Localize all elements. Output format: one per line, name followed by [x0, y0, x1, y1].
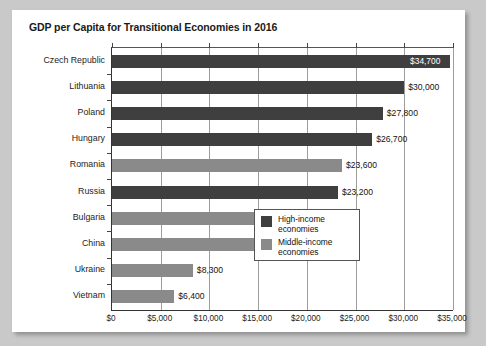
legend-label: Middle-income economies: [278, 238, 332, 257]
y-axis-tick: [107, 100, 112, 101]
bar: [112, 107, 383, 120]
x-axis-tick-label: $35,000: [437, 314, 467, 323]
y-axis-category-label: Czech Republic: [12, 55, 105, 65]
bar-value-label: $23,200: [342, 186, 373, 199]
legend-label: High-income economies: [278, 215, 325, 234]
bar-value-label: $34,700: [410, 55, 440, 68]
legend-swatch-high: [261, 216, 272, 227]
y-axis-category-label: China: [12, 238, 105, 248]
x-axis-tick: [356, 43, 357, 48]
bar-value-label: $8,300: [197, 264, 223, 277]
bar-value-label: $6,400: [178, 290, 204, 303]
legend-item: Middle-income economies: [261, 238, 359, 257]
y-axis-tick: [107, 231, 112, 232]
bar-value-label: $23,600: [346, 159, 377, 172]
bar-value-label: $26,700: [376, 133, 407, 146]
bar: [112, 159, 342, 172]
x-axis-tick: [161, 43, 162, 48]
bar-value-label: $30,000: [408, 81, 439, 94]
legend-item: High-income economies: [261, 215, 359, 234]
x-axis-tick: [453, 43, 454, 48]
y-axis-category-label: Romania: [12, 159, 105, 169]
y-axis-category-label: Ukraine: [12, 264, 105, 274]
bar: [112, 264, 193, 277]
gridline: [453, 48, 454, 310]
chart-title: GDP per Capita for Transitional Economie…: [29, 21, 277, 33]
y-axis-category-label: Vietnam: [12, 290, 105, 300]
legend-swatch-middle: [261, 239, 272, 250]
chart-legend: High-income economiesMiddle-income econo…: [254, 209, 360, 261]
y-axis-tick: [107, 258, 112, 259]
y-axis-tick: [107, 205, 112, 206]
x-axis-tick-label: $15,000: [242, 314, 272, 323]
x-axis-tick: [404, 43, 405, 48]
y-axis-category-label: Lithuania: [12, 81, 105, 91]
bar-value-label: $27,800: [387, 107, 418, 120]
y-axis-tick: [107, 74, 112, 75]
y-axis-tick: [107, 153, 112, 154]
x-axis-tick-label: $25,000: [340, 314, 370, 323]
bar: [112, 238, 263, 251]
y-axis-tick: [107, 284, 112, 285]
x-axis-tick: [307, 43, 308, 48]
gridline: [404, 48, 405, 310]
plot-area: $34,700$30,000$27,800$26,700$23,600$23,2…: [111, 47, 453, 311]
x-axis-tick-label: $10,000: [194, 314, 224, 323]
y-axis-tick: [107, 179, 112, 180]
y-axis-category-label: Bulgaria: [12, 212, 105, 222]
chart-card: GDP per Capita for Transitional Economie…: [12, 10, 465, 332]
x-axis-tick-label: $20,000: [291, 314, 321, 323]
bar: [112, 81, 404, 94]
y-axis-category-label: Poland: [12, 107, 105, 117]
x-axis-tick: [258, 43, 259, 48]
x-axis-tick-label: $0: [106, 314, 115, 323]
bar: [112, 55, 450, 68]
y-axis-category-label: Hungary: [12, 133, 105, 143]
bar: [112, 133, 372, 146]
y-axis-category-label: Russia: [12, 186, 105, 196]
x-axis-tick-label: $30,000: [388, 314, 418, 323]
bar: [112, 290, 174, 303]
y-axis-tick: [107, 127, 112, 128]
x-axis-tick-label: $5,000: [147, 314, 172, 323]
bar: [112, 186, 338, 199]
x-axis-tick: [209, 43, 210, 48]
x-axis-tick: [112, 43, 113, 48]
